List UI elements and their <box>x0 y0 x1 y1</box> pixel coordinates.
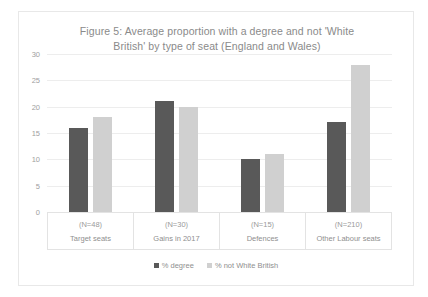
chart-title-line-1: Figure 5: Average proportion with a degr… <box>49 24 385 39</box>
chart-title-line-2: British' by type of seat (England and Wa… <box>49 39 385 54</box>
legend-label: % degree <box>162 261 194 270</box>
bar <box>241 159 260 212</box>
category-count-label: (N=15) <box>251 220 274 229</box>
bar-group <box>133 54 219 212</box>
bar-group <box>306 54 392 212</box>
category-cell: (N=48)Target seats <box>48 213 134 250</box>
y-axis-tick-label: 10 <box>32 155 40 164</box>
legend-item[interactable]: % not White British <box>207 261 278 270</box>
y-axis-tick-label: 25 <box>32 76 40 85</box>
y-axis-tick-label: 0 <box>36 208 40 217</box>
chart-title: Figure 5: Average proportion with a degr… <box>49 24 385 54</box>
category-cell: (N=30)Gains in 2017 <box>134 213 220 250</box>
legend-swatch-icon <box>154 263 159 268</box>
bar <box>327 122 346 212</box>
chart-legend: % degree% not White British <box>18 261 414 270</box>
category-cell: (N=210)Other Labour seats <box>306 213 392 250</box>
y-axis-tick-label: 5 <box>36 181 40 190</box>
category-count-label: (N=30) <box>165 220 188 229</box>
bar <box>69 128 88 212</box>
category-name-label: Target seats <box>70 234 111 243</box>
y-axis-tick-label: 20 <box>32 102 40 111</box>
bar <box>265 154 284 212</box>
bars-layer <box>47 54 392 212</box>
category-name-label: Gains in 2017 <box>153 234 199 243</box>
bar <box>179 107 198 212</box>
bar <box>155 101 174 212</box>
plot-area <box>47 54 392 212</box>
category-count-label: (N=210) <box>335 220 362 229</box>
bar-group <box>47 54 133 212</box>
bar <box>93 117 112 212</box>
y-axis-tick-label: 15 <box>32 129 40 138</box>
category-axis-table: (N=48)Target seats(N=30)Gains in 2017(N=… <box>47 212 392 250</box>
category-cell: (N=15)Defences <box>220 213 306 250</box>
category-count-label: (N=48) <box>79 220 102 229</box>
bar-group <box>220 54 306 212</box>
legend-label: % not White British <box>215 261 278 270</box>
legend-swatch-icon <box>207 263 212 268</box>
legend-item[interactable]: % degree <box>154 261 194 270</box>
y-axis: 051015202530 <box>18 54 44 212</box>
category-name-label: Defences <box>247 234 279 243</box>
y-axis-tick-label: 30 <box>32 50 40 59</box>
bar <box>351 65 370 212</box>
category-name-label: Other Labour seats <box>316 234 380 243</box>
